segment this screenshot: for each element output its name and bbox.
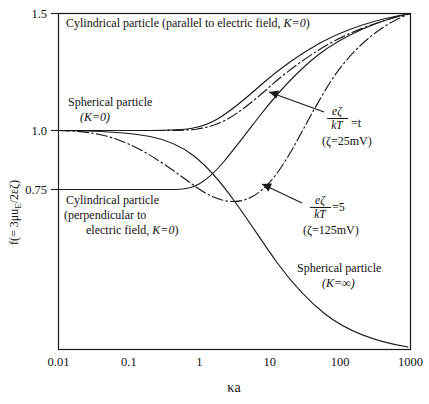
label-ezeta-kt-5-equals: =5 <box>332 200 345 214</box>
label-spherical-kinf-line2: (K=∞) <box>322 276 355 290</box>
y-axis-ticks <box>51 14 59 190</box>
x-tick-1: 0.01 <box>48 355 70 369</box>
label-cylindrical-perpendicular-line2: (perpendicular to <box>64 208 146 222</box>
label-ezeta-kt-5-denominator: kT <box>314 208 327 220</box>
y-axis-title-main: f(= 3μu <box>7 209 21 245</box>
x-tick-3: 1 <box>196 355 202 369</box>
label-ezeta-kt-5-subtext: (ζ=125mV) <box>303 223 359 237</box>
x-tick-4: 10 <box>263 355 276 369</box>
x-tick-6: 1000 <box>398 355 423 369</box>
label-ezeta-kt-5-numerator: eζ <box>315 194 326 207</box>
y-tick-3: 0.75 <box>25 183 47 197</box>
svg-text:f(= 3μuE/2εζ): f(= 3μuE/2εζ) <box>7 180 23 245</box>
x-tick-5: 100 <box>331 355 350 369</box>
label-cylindrical-perpendicular-line3: electric field, K=0) <box>86 223 178 237</box>
y-axis-title: f(= 3μuE/2εζ) <box>7 180 23 245</box>
label-ezeta-kt-1-denominator: kT <box>331 119 344 131</box>
x-axis-title: κa <box>227 380 241 395</box>
x-tick-2: 0.1 <box>121 355 137 369</box>
label-cylindrical-perpendicular-line1: Cylindrical particle <box>66 193 159 207</box>
plot-frame <box>59 14 411 350</box>
label-ezeta-kt-1-numerator: eζ <box>332 105 343 118</box>
label-ezeta-kt-1-equals: =t <box>351 116 362 130</box>
label-ezeta-kt-1-subtext: (ζ=25mV) <box>322 134 372 148</box>
label-ezeta-kt-1: eζ kT =t (ζ=25mV) <box>322 105 372 148</box>
y-tick-2: 1.0 <box>31 124 47 138</box>
y-axis-title-tail: /2εζ) <box>7 180 21 203</box>
label-ezeta-kt-5: eζ kT =5 (ζ=125mV) <box>303 194 359 237</box>
label-spherical-k0-line2: (K=0) <box>80 110 110 124</box>
label-spherical-kinf-line1: Spherical particle <box>297 261 381 275</box>
annotation-arrows <box>262 91 324 204</box>
label-spherical-k0-line1: Spherical particle <box>68 95 152 109</box>
electrophoresis-henry-function-chart: 1.5 1.0 0.75 0.01 0.1 1 10 100 1000 κa f… <box>0 0 429 404</box>
y-tick-1: 1.5 <box>31 7 47 21</box>
label-cylindrical-parallel: Cylindrical particle (parallel to electr… <box>66 16 310 30</box>
curve-spherical-kinf <box>59 131 409 348</box>
